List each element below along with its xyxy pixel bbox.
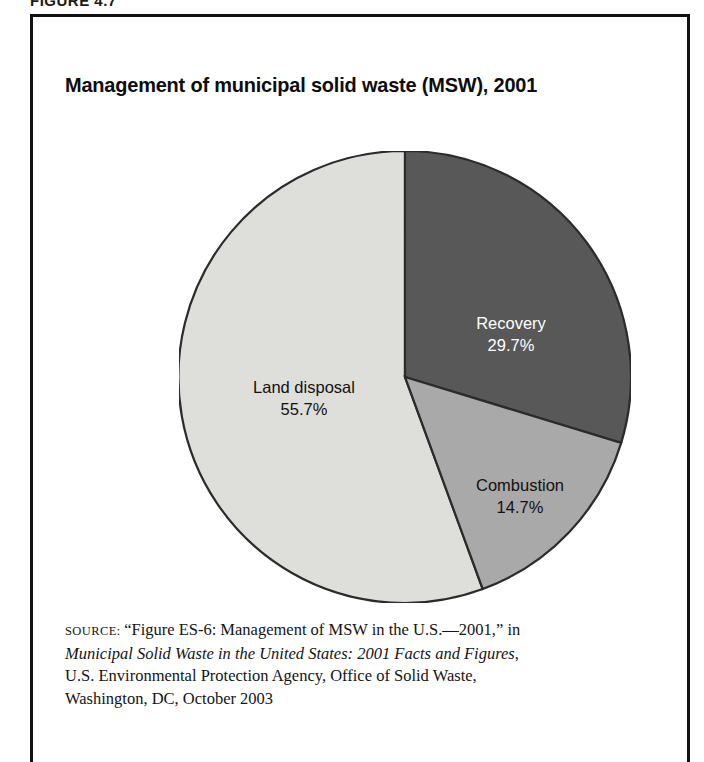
source-publication-title: Municipal Solid Waste in the United Stat… (65, 644, 515, 663)
source-line-2: Municipal Solid Waste in the United Stat… (65, 643, 665, 666)
pie-label-combustion-name: Combustion (476, 476, 564, 494)
figure-caption: FIGURE 4.7 (30, 0, 330, 8)
source-line-4: Washington, DC, October 2003 (65, 688, 665, 711)
figure-box: Management of municipal solid waste (MSW… (30, 14, 690, 762)
source-label: Source: (65, 624, 124, 638)
page-title: Management of municipal solid waste (MSW… (65, 73, 537, 97)
pie-label-combustion-value: 14.7% (497, 498, 544, 516)
source-line-3: U.S. Environmental Protection Agency, Of… (65, 665, 665, 688)
source-line-2-comma: , (515, 644, 519, 663)
source-line-1: Source: “Figure ES-6: Management of MSW … (65, 619, 665, 643)
pie-label-recovery-value: 29.7% (488, 336, 535, 354)
pie-chart-svg: Recovery 29.7% Combustion 14.7% Land dis… (179, 151, 631, 603)
pie-chart: Recovery 29.7% Combustion 14.7% Land dis… (179, 151, 631, 603)
pie-label-recovery-name: Recovery (476, 314, 546, 332)
source-note: Source: “Figure ES-6: Management of MSW … (65, 619, 665, 710)
pie-label-land-disposal-value: 55.7% (281, 400, 328, 418)
source-line-1-text: “Figure ES-6: Management of MSW in the U… (124, 620, 520, 639)
pie-label-land-disposal-name: Land disposal (253, 378, 355, 396)
